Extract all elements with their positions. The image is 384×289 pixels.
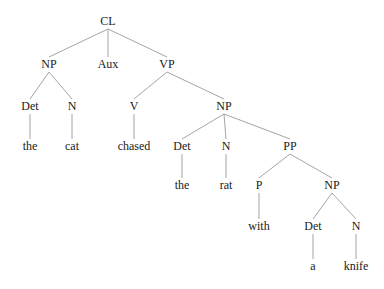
tree-node-det: Det <box>21 99 39 113</box>
tree-node-layer: CLNPAuxVPDetNVNPthecatchasedDetNPPtherat… <box>21 14 368 273</box>
tree-edge <box>49 29 108 57</box>
tree-edge <box>108 29 167 57</box>
tree-node-cl: CL <box>100 14 115 28</box>
tree-terminal-with: with <box>248 219 269 233</box>
tree-node-np: NP <box>324 178 340 192</box>
tree-edge <box>49 72 72 99</box>
tree-terminal-knife: knife <box>344 259 369 273</box>
tree-edge <box>167 72 224 99</box>
tree-node-det: Det <box>304 219 322 233</box>
tree-node-pp: PP <box>283 139 297 153</box>
tree-edge <box>30 72 49 99</box>
tree-terminal-the: the <box>175 178 190 192</box>
tree-node-vp: VP <box>159 57 175 71</box>
tree-node-np: NP <box>41 57 57 71</box>
tree-node-v: V <box>130 99 139 113</box>
tree-node-n: N <box>222 139 231 153</box>
tree-node-n: N <box>352 219 361 233</box>
tree-edge <box>224 114 226 139</box>
tree-edge <box>134 72 167 99</box>
tree-terminal-cat: cat <box>65 139 80 153</box>
tree-terminal-chased: chased <box>118 139 151 153</box>
tree-edge <box>224 114 290 139</box>
tree-node-p: P <box>256 178 263 192</box>
syntax-tree-canvas: CLNPAuxVPDetNVNPthecatchasedDetNPPtherat… <box>0 0 384 289</box>
tree-node-n: N <box>68 99 77 113</box>
tree-node-np: NP <box>216 99 232 113</box>
tree-terminal-the: the <box>23 139 38 153</box>
tree-edge <box>259 154 290 178</box>
tree-edge <box>332 193 356 219</box>
tree-node-aux: Aux <box>98 57 119 71</box>
syntax-tree-figure: CLNPAuxVPDetNVNPthecatchasedDetNPPtherat… <box>0 0 384 289</box>
tree-edge <box>313 193 332 219</box>
tree-edge <box>290 154 332 178</box>
tree-node-det: Det <box>173 139 191 153</box>
tree-terminal-rat: rat <box>220 178 233 192</box>
tree-terminal-a: a <box>310 259 316 273</box>
tree-edge <box>182 114 224 139</box>
